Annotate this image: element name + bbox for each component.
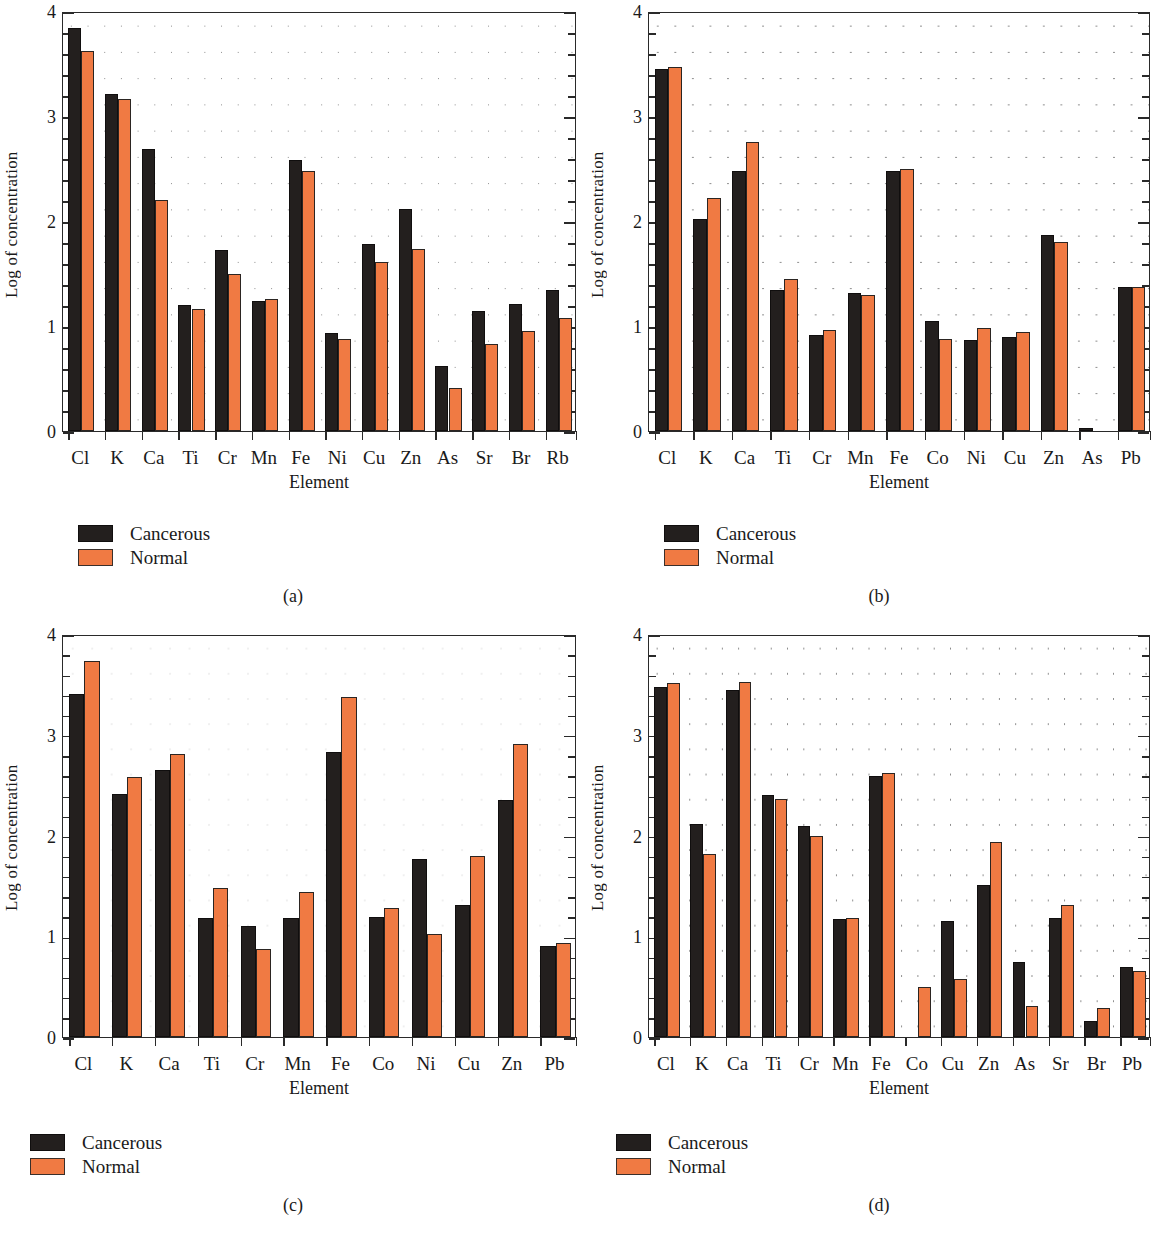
legend-swatch-normal [664, 549, 699, 566]
bar-normal-Br [522, 331, 535, 431]
y-tick-label: 4 [47, 3, 56, 21]
bar-normal-Ni [977, 328, 991, 431]
x-tick-label-Mn: Mn [251, 448, 277, 467]
bar-normal-Cl [667, 683, 680, 1037]
bar-cancerous-Br [1084, 1021, 1097, 1037]
bar-cancerous-K [690, 824, 703, 1037]
x-tick-label-Cu: Cu [363, 448, 385, 467]
bar-cancerous-Ni [325, 333, 338, 431]
legend-item-normal: Normal [616, 1157, 748, 1176]
x-tick [654, 1037, 655, 1046]
x-tick [198, 1037, 199, 1046]
panel-caption: (a) [283, 586, 303, 607]
x-tick [905, 1037, 906, 1046]
x-tick [399, 431, 400, 440]
legend-label-cancerous: Cancerous [130, 524, 210, 543]
x-tick [726, 1037, 727, 1046]
bar-cancerous-Pb [1120, 967, 1133, 1037]
bar-cancerous-Cl [68, 28, 81, 431]
x-tick-label-Co: Co [927, 448, 949, 467]
x-tick-label-Br: Br [1087, 1054, 1106, 1073]
x-tick [68, 431, 69, 440]
y-tick-label: 0 [47, 423, 56, 441]
bar-cancerous-K [112, 794, 127, 1037]
bar-normal-K [707, 198, 721, 431]
bar-normal-Br [1097, 1008, 1110, 1037]
x-tick-label-As: As [1082, 448, 1103, 467]
bar-normal-Fe [341, 697, 356, 1037]
x-tick [977, 1037, 978, 1046]
x-tick [215, 431, 216, 440]
bar-cancerous-Br [509, 304, 522, 431]
x-tick [540, 1037, 541, 1046]
bar-cancerous-Cr [215, 250, 228, 431]
x-tick [1049, 1037, 1050, 1046]
x-axis-title: Element [62, 472, 576, 493]
y-tick-label: 4 [47, 626, 56, 644]
bar-normal-Zn [990, 842, 1003, 1037]
bar-normal-Cu [1016, 332, 1030, 431]
bar-normal-Ni [338, 339, 351, 431]
bar-cancerous-Ti [762, 795, 775, 1037]
y-tick-labels: 01234 [28, 12, 56, 432]
x-tick [472, 431, 473, 440]
bars-layer [63, 636, 575, 1037]
x-tick-label-Sr: Sr [476, 448, 493, 467]
legend-item-cancerous: Cancerous [616, 1133, 748, 1152]
bar-normal-Sr [1061, 905, 1074, 1037]
bar-normal-Cr [810, 836, 823, 1038]
x-tick-label-Pb: Pb [545, 1054, 565, 1073]
x-tick-label-Ni: Ni [328, 448, 347, 467]
x-tick [241, 1037, 242, 1046]
bar-normal-Cu [954, 979, 967, 1037]
x-tick [412, 1037, 413, 1046]
y-axis-title: Log of concentration [2, 100, 22, 350]
x-tick-label-Zn: Zn [1043, 448, 1064, 467]
y-tick-label: 1 [47, 928, 56, 946]
bar-normal-Ti [784, 279, 798, 431]
y-tick-label: 2 [47, 213, 56, 231]
x-tick-label-Zn: Zn [400, 448, 421, 467]
bar-normal-Co [939, 339, 953, 431]
legend-swatch-cancerous [616, 1134, 651, 1151]
bar-cancerous-Co [925, 321, 939, 431]
legend-swatch-cancerous [664, 525, 699, 542]
x-tick-label-K: K [695, 1054, 709, 1073]
x-tick-label-Fe: Fe [872, 1054, 891, 1073]
x-tick-label-Ni: Ni [417, 1054, 436, 1073]
legend-item-cancerous: Cancerous [30, 1133, 162, 1152]
y-tick-label: 2 [47, 828, 56, 846]
x-tick [455, 1037, 456, 1046]
bar-normal-Ca [170, 754, 185, 1037]
plot-area [62, 12, 576, 432]
x-tick-label-Cr: Cr [800, 1054, 819, 1073]
x-tick [1013, 1037, 1014, 1046]
y-tick-label: 4 [633, 3, 642, 21]
legend-label-normal: Normal [130, 548, 188, 567]
bar-normal-Zn [1054, 242, 1068, 431]
y-tick-label: 3 [47, 727, 56, 745]
bar-normal-Cr [823, 330, 837, 431]
x-tick [1041, 431, 1042, 440]
y-tick [564, 1038, 575, 1039]
x-tick-label-Mn: Mn [284, 1054, 310, 1073]
x-tick-label-Cl: Cl [657, 1054, 675, 1073]
bar-cancerous-Cr [241, 926, 256, 1037]
legend-label-normal: Normal [82, 1157, 140, 1176]
bar-normal-Pb [556, 943, 571, 1037]
plot-area [648, 12, 1150, 432]
x-tick [964, 431, 965, 440]
x-tick [1084, 1037, 1085, 1046]
bar-normal-Cr [228, 274, 241, 432]
plot-area [648, 635, 1150, 1038]
bar-cancerous-K [693, 219, 707, 431]
x-axis-title: Element [648, 1078, 1150, 1099]
x-tick-label-Ni: Ni [967, 448, 986, 467]
bar-normal-Ti [213, 888, 228, 1037]
bar-cancerous-Ti [178, 305, 191, 431]
bar-normal-Ti [775, 799, 788, 1037]
x-tick [869, 1037, 870, 1046]
bar-normal-As [449, 388, 462, 431]
x-tick [762, 1037, 763, 1046]
x-tick [693, 431, 694, 440]
